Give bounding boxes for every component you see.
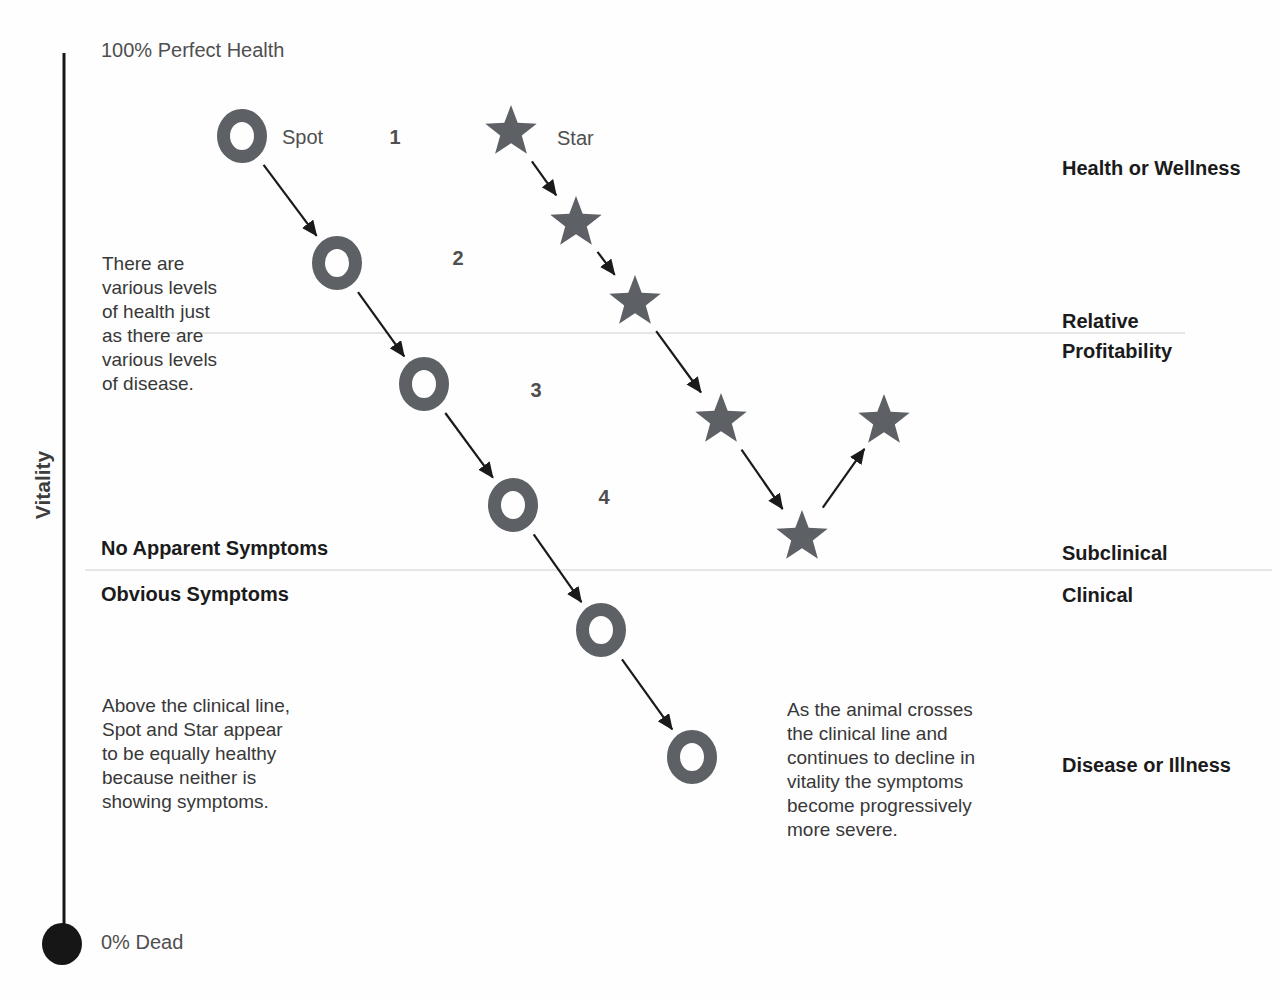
star-icon [858,394,909,443]
star-path-arrow [532,161,556,195]
dead-endpoint-dot [42,923,82,965]
spot-ring-icon [674,737,711,778]
disease-or-illness-label: Disease or Illness [1062,753,1231,777]
axis-top-label: 100% Perfect Health [101,38,284,62]
levels-annotation: There are various levels of health just … [102,252,272,396]
clinical-label: Clinical [1062,583,1133,607]
star-path-arrow [656,331,701,392]
stage-number-3: 3 [530,379,541,402]
spot-path-arrow [264,165,317,236]
stage-number-1: 1 [389,126,400,149]
relative-profitability-label: Relative Profitability [1062,306,1172,366]
spot-path-arrow [358,292,404,356]
star-icon [695,393,746,442]
stage-number-4: 4 [598,486,609,509]
spot-ring-icon [583,610,620,651]
crossing-clinical-annotation: As the animal crosses the clinical line … [787,698,1027,842]
vitality-axis-label: Vitality [31,451,55,519]
stage-number-2: 2 [452,247,463,270]
spot-path-arrow [534,534,582,602]
health-or-wellness-label: Health or Wellness [1062,156,1241,180]
star-series-label: Star [557,126,594,150]
star-icon [485,105,536,154]
star-path-arrow [742,450,783,509]
star-path-arrow [598,252,615,275]
star-path-arrow [823,449,865,508]
axis-bottom-label: 0% Dead [101,930,183,954]
spot-path-arrow [445,413,493,478]
spot-ring-icon [495,485,532,526]
diagram-graphics [0,0,1279,1001]
spot-ring-icon [406,364,443,405]
obvious-symptoms-label: Obvious Symptoms [101,582,289,606]
above-clinical-annotation: Above the clinical line, Spot and Star a… [102,694,332,814]
star-icon [776,510,827,559]
vitality-diagram: 100% Perfect Health 0% Dead Vitality Spo… [0,0,1279,1001]
spot-ring-icon [224,116,261,157]
no-apparent-symptoms-label: No Apparent Symptoms [101,536,328,560]
star-icon [609,275,660,324]
spot-ring-icon [319,243,356,284]
spot-path-arrow [622,659,672,729]
subclinical-label: Subclinical [1062,541,1168,565]
spot-series-label: Spot [282,125,323,149]
star-icon [550,196,601,245]
